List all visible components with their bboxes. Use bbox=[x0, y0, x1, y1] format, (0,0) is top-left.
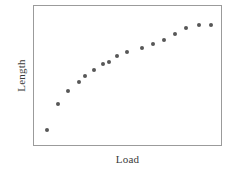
data-point bbox=[125, 50, 129, 54]
data-point bbox=[77, 80, 81, 84]
data-point bbox=[173, 32, 177, 36]
data-point bbox=[197, 23, 201, 27]
y-axis-label: Length bbox=[14, 5, 28, 146]
data-point bbox=[83, 74, 87, 78]
data-point bbox=[209, 23, 213, 27]
data-point bbox=[66, 89, 70, 93]
data-point bbox=[107, 60, 111, 64]
data-point bbox=[151, 42, 155, 46]
plot-area bbox=[34, 6, 221, 145]
data-point bbox=[140, 46, 144, 50]
data-point bbox=[115, 54, 119, 58]
data-point bbox=[162, 38, 166, 42]
data-point bbox=[101, 62, 105, 66]
scatter-plot-figure: Length Load bbox=[0, 0, 240, 172]
data-point bbox=[56, 102, 60, 106]
data-point bbox=[184, 26, 188, 30]
data-point bbox=[92, 68, 96, 72]
data-point bbox=[45, 128, 49, 132]
plot-frame bbox=[33, 5, 222, 146]
x-axis-label: Load bbox=[33, 152, 222, 166]
